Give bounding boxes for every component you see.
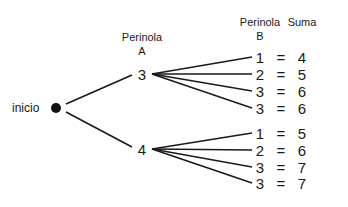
outcome-b: 3	[256, 101, 264, 116]
outcome-sum: 6	[298, 143, 306, 158]
outcome-sum: 6	[298, 101, 306, 116]
outcome-eq: =	[277, 126, 286, 141]
outcome-sum: 4	[298, 50, 306, 65]
outcome-eq: =	[277, 50, 286, 65]
edge-start-to-a4	[66, 112, 132, 147]
tree-lines	[0, 0, 348, 207]
outcome-eq: =	[277, 176, 286, 191]
outcome-eq: =	[277, 84, 286, 99]
header-perinola-a-line2: A	[138, 46, 145, 57]
outcome-b: 3	[256, 160, 264, 175]
outcome-eq: =	[277, 67, 286, 82]
header-suma: Suma	[288, 17, 317, 28]
header-perinola-b-line1: Perinola	[240, 17, 280, 28]
node-a-4: 4	[138, 142, 146, 157]
outcome-eq: =	[277, 101, 286, 116]
fan-a4	[152, 133, 252, 183]
tree-diagram: inicio Perinola A Perinola B Suma 3 4 1 …	[0, 0, 348, 207]
outcome-sum: 7	[298, 176, 306, 191]
edge-start-to-a3	[66, 75, 132, 104]
outcome-b: 3	[256, 84, 264, 99]
start-label: inicio	[12, 102, 39, 114]
header-perinola-b-line2: B	[256, 31, 263, 42]
outcome-sum: 5	[298, 126, 306, 141]
outcome-b: 1	[256, 126, 264, 141]
node-a-3: 3	[138, 67, 146, 82]
outcome-b: 2	[256, 67, 264, 82]
outcome-b: 2	[256, 143, 264, 158]
outcome-eq: =	[277, 160, 286, 175]
outcome-sum: 6	[298, 84, 306, 99]
outcome-b: 3	[256, 176, 264, 191]
fan-a3	[152, 57, 252, 108]
outcome-sum: 5	[298, 67, 306, 82]
start-node-dot	[51, 103, 61, 113]
outcome-b: 1	[256, 50, 264, 65]
outcome-sum: 7	[298, 160, 306, 175]
header-perinola-a-line1: Perinola	[122, 32, 162, 43]
outcome-eq: =	[277, 143, 286, 158]
